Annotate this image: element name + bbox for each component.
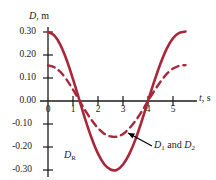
x-tick-label-3: 3 — [117, 105, 129, 115]
component-1-subscript: 1 — [161, 144, 165, 152]
x-axis-unit: s — [207, 92, 211, 103]
y-tick-label-neg010: -0.10 — [0, 119, 32, 129]
waveform-superposition-figure: D, m t, s 0.30 0.20 0.10 0.00 -0.10 -0.2… — [0, 0, 216, 180]
y-axis-unit: m — [41, 10, 49, 21]
y-axis-title: D, m — [29, 11, 49, 21]
x-tick-label-4: 4 — [142, 105, 154, 115]
annotation-arrow — [128, 133, 152, 146]
x-tick-label-2: 2 — [92, 105, 104, 115]
y-tick-label-neg020: -0.20 — [0, 142, 32, 152]
x-tick-label-1: 1 — [67, 105, 79, 115]
component-2-subscript: 2 — [191, 144, 195, 152]
y-tick-label-000: 0.00 — [4, 96, 36, 106]
x-tick-label-0: 0 — [42, 105, 54, 115]
y-tick-label-010: 0.10 — [4, 73, 36, 83]
y-tick-label-neg030: -0.30 — [0, 165, 32, 175]
y-tick-label-020: 0.20 — [4, 50, 36, 60]
curve-label-resultant: DR — [64, 150, 76, 160]
conjunction-text: and — [165, 139, 184, 150]
y-tick-label-030: 0.30 — [4, 27, 36, 37]
curve-label-components: D1 and D2 — [154, 140, 195, 150]
x-axis-title: t, s — [199, 93, 211, 103]
resultant-subscript: R — [71, 154, 76, 162]
x-tick-label-5: 5 — [167, 105, 179, 115]
